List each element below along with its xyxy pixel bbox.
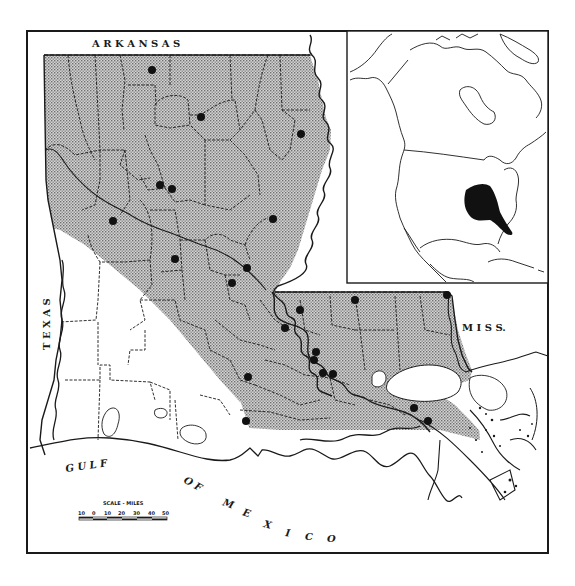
lake-maurepas <box>372 371 386 387</box>
locality-dot <box>148 66 156 74</box>
svg-text:10: 10 <box>78 510 85 516</box>
locality-dot <box>244 373 252 381</box>
svg-text:SCALE - MILES: SCALE - MILES <box>103 500 144 506</box>
label-texas: T E X A S <box>41 298 52 350</box>
svg-text:50: 50 <box>162 510 169 516</box>
svg-text:C: C <box>305 531 313 542</box>
locality-dot <box>312 348 320 356</box>
svg-text:O: O <box>327 533 336 544</box>
locality-dot <box>242 417 250 425</box>
label-miss: M I S S. <box>462 322 506 333</box>
label-arkansas: A R K A N S A S <box>91 38 180 49</box>
locality-dot <box>281 324 289 332</box>
locality-dot <box>310 356 318 364</box>
inset-map-north-america <box>347 31 548 283</box>
svg-text:10: 10 <box>104 510 111 516</box>
locality-dot <box>297 130 305 138</box>
locality-dot <box>197 113 205 121</box>
svg-text:0: 0 <box>92 510 96 516</box>
svg-text:40: 40 <box>148 510 155 516</box>
locality-dot <box>443 291 451 299</box>
range-map-figure: A R K A N S A S T E X A S M I S S. G U L… <box>0 0 575 586</box>
svg-text:30: 30 <box>133 510 140 516</box>
locality-dot <box>319 369 327 377</box>
locality-dot <box>171 255 179 263</box>
locality-dot <box>228 279 236 287</box>
figure-caption-cutoff <box>30 578 550 586</box>
locality-dot <box>168 185 176 193</box>
locality-dot <box>156 181 164 189</box>
locality-dot <box>269 215 277 223</box>
locality-dot <box>329 370 337 378</box>
locality-dot <box>351 296 359 304</box>
locality-dot <box>424 417 432 425</box>
locality-dot <box>243 264 251 272</box>
locality-dot <box>296 306 304 314</box>
svg-text:20: 20 <box>118 510 125 516</box>
white-lake <box>154 408 167 418</box>
locality-dot <box>109 217 117 225</box>
locality-dot <box>410 404 418 412</box>
